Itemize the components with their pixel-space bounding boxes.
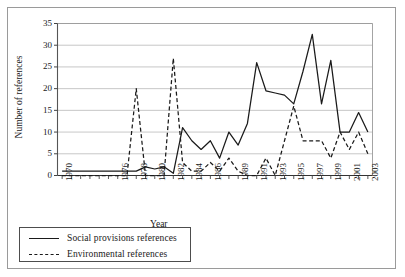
legend-swatch-dashed-icon bbox=[29, 249, 59, 259]
legend-label-environmental: Environmental references bbox=[67, 249, 167, 259]
legend-label-social-provisions: Social provisions references bbox=[67, 233, 177, 243]
figure: 05101520253035 1970197619781980198219841… bbox=[0, 0, 405, 277]
series-layer bbox=[62, 34, 368, 175]
x-tick-label: 1995 bbox=[297, 163, 306, 181]
x-tick-label: 1970 bbox=[65, 163, 74, 181]
plot-frame bbox=[58, 24, 373, 176]
legend-item-social-provisions: Social provisions references bbox=[20, 230, 190, 246]
y-tick-label: 35 bbox=[30, 19, 52, 28]
x-tick-label: 2001 bbox=[353, 163, 362, 181]
y-tick-label: 25 bbox=[30, 62, 52, 71]
y-axis-title: Number of references bbox=[14, 47, 24, 147]
y-tick-label: 0 bbox=[30, 171, 52, 180]
x-tick-label: 1986 bbox=[214, 163, 223, 181]
x-tick-label: 1976 bbox=[121, 163, 130, 181]
x-tick-label: 1997 bbox=[316, 163, 325, 181]
x-tick-label: 1989 bbox=[241, 163, 250, 181]
x-tick-label: 1980 bbox=[158, 163, 167, 181]
x-tick-label: 1999 bbox=[334, 163, 343, 181]
x-tick-label: 1991 bbox=[260, 163, 269, 181]
x-tick-label: 1984 bbox=[195, 163, 204, 181]
y-tick-label: 15 bbox=[30, 106, 52, 115]
x-tick-label: 1982 bbox=[177, 163, 186, 181]
legend-item-environmental: Environmental references bbox=[20, 246, 190, 262]
x-tick-label: 2003 bbox=[371, 163, 380, 181]
y-tick-label: 10 bbox=[30, 128, 52, 137]
chart-legend: Social provisions references Environment… bbox=[19, 227, 191, 262]
legend-swatch-solid-icon bbox=[29, 233, 59, 243]
y-tick-label: 5 bbox=[30, 149, 52, 158]
x-tick-label: 1993 bbox=[279, 163, 288, 181]
x-tick-label: 1978 bbox=[140, 163, 149, 181]
y-tick-label: 30 bbox=[30, 41, 52, 50]
y-tick-label: 20 bbox=[30, 84, 52, 93]
